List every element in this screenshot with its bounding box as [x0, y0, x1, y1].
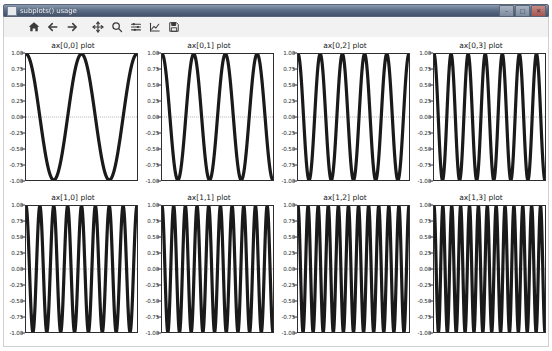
- y-axis-ticks: 1.000.750.500.250.00-0.25-0.50-0.75-1.00: [144, 53, 161, 181]
- plot-area[interactable]: [25, 205, 138, 333]
- axes-area: 1.000.750.500.250.00-0.25-0.50-0.75-1.00: [144, 53, 274, 181]
- subplot-ax02[interactable]: ax[0,2] plot1.000.750.500.250.00-0.25-0.…: [280, 41, 410, 185]
- subplot-title: ax[1,1] plot: [144, 193, 274, 202]
- subplot-ax12[interactable]: ax[1,2] plot1.000.750.500.250.00-0.25-0.…: [280, 193, 410, 337]
- y-axis-ticks: 1.000.750.500.250.00-0.25-0.50-0.75-1.00: [144, 205, 161, 333]
- axes-area: 1.000.750.500.250.00-0.25-0.50-0.75-1.00: [416, 205, 546, 333]
- subplot-ax03[interactable]: ax[0,3] plot1.000.750.500.250.00-0.25-0.…: [416, 41, 546, 185]
- subplot-title: ax[0,0] plot: [8, 41, 138, 50]
- close-button[interactable]: ✕: [531, 5, 546, 17]
- maximize-button[interactable]: □: [515, 5, 530, 17]
- subplot-ax01[interactable]: ax[0,1] plot1.000.750.500.250.00-0.25-0.…: [144, 41, 274, 185]
- y-axis-ticks: 1.000.750.500.250.00-0.25-0.50-0.75-1.00: [280, 53, 297, 181]
- window-title: subplots() usage: [20, 7, 77, 15]
- subplot-title: ax[1,3] plot: [416, 193, 546, 202]
- navigation-toolbar: [3, 17, 549, 37]
- plot-area[interactable]: [297, 205, 410, 333]
- subplot-config-icon[interactable]: [128, 20, 143, 35]
- window-controls: – □ ✕: [499, 5, 546, 17]
- plot-area[interactable]: [297, 53, 410, 181]
- subplot-title: ax[1,0] plot: [8, 193, 138, 202]
- subplot-ax11[interactable]: ax[1,1] plot1.000.750.500.250.00-0.25-0.…: [144, 193, 274, 337]
- subplot-title: ax[1,2] plot: [280, 193, 410, 202]
- y-axis-ticks: 1.000.750.500.250.00-0.25-0.50-0.75-1.00: [280, 205, 297, 333]
- plot-area[interactable]: [433, 53, 546, 181]
- plot-area[interactable]: [161, 205, 274, 333]
- plot-area[interactable]: [161, 53, 274, 181]
- subplot-grid: ax[0,0] plot1.000.750.500.250.00-0.25-0.…: [4, 37, 548, 346]
- minimize-button[interactable]: –: [499, 5, 514, 17]
- y-axis-ticks: 1.000.750.500.250.00-0.25-0.50-0.75-1.00: [416, 205, 433, 333]
- forward-arrow-icon[interactable]: [64, 20, 79, 35]
- axes-area: 1.000.750.500.250.00-0.25-0.50-0.75-1.00: [144, 205, 274, 333]
- pan-icon[interactable]: [90, 20, 105, 35]
- zoom-icon[interactable]: [109, 20, 124, 35]
- window-titlebar[interactable]: subplots() usage – □ ✕: [3, 4, 549, 17]
- axes-area: 1.000.750.500.250.00-0.25-0.50-0.75-1.00: [280, 53, 410, 181]
- home-icon[interactable]: [26, 20, 41, 35]
- waveform-line: [26, 206, 137, 332]
- waveform-line: [434, 206, 545, 332]
- save-icon[interactable]: [166, 20, 181, 35]
- subplot-ax13[interactable]: ax[1,3] plot1.000.750.500.250.00-0.25-0.…: [416, 193, 546, 337]
- plot-area[interactable]: [25, 53, 138, 181]
- subplot-ax00[interactable]: ax[0,0] plot1.000.750.500.250.00-0.25-0.…: [8, 41, 138, 185]
- customize-icon[interactable]: [147, 20, 162, 35]
- subplot-title: ax[0,3] plot: [416, 41, 546, 50]
- figure-canvas[interactable]: ax[0,0] plot1.000.750.500.250.00-0.25-0.…: [3, 37, 549, 347]
- plot-area[interactable]: [433, 205, 546, 333]
- axes-area: 1.000.750.500.250.00-0.25-0.50-0.75-1.00: [8, 53, 138, 181]
- back-arrow-icon[interactable]: [45, 20, 60, 35]
- waveform-line: [298, 54, 409, 180]
- y-axis-ticks: 1.000.750.500.250.00-0.25-0.50-0.75-1.00: [8, 53, 25, 181]
- axes-area: 1.000.750.500.250.00-0.25-0.50-0.75-1.00: [280, 205, 410, 333]
- subplot-title: ax[0,1] plot: [144, 41, 274, 50]
- axes-area: 1.000.750.500.250.00-0.25-0.50-0.75-1.00: [8, 205, 138, 333]
- subplot-title: ax[0,2] plot: [280, 41, 410, 50]
- axes-area: 1.000.750.500.250.00-0.25-0.50-0.75-1.00: [416, 53, 546, 181]
- app-icon: [7, 6, 17, 16]
- subplot-ax10[interactable]: ax[1,0] plot1.000.750.500.250.00-0.25-0.…: [8, 193, 138, 337]
- waveform-line: [298, 206, 409, 332]
- y-axis-ticks: 1.000.750.500.250.00-0.25-0.50-0.75-1.00: [416, 53, 433, 181]
- y-axis-ticks: 1.000.750.500.250.00-0.25-0.50-0.75-1.00: [8, 205, 25, 333]
- figure-window: subplots() usage – □ ✕: [0, 0, 552, 351]
